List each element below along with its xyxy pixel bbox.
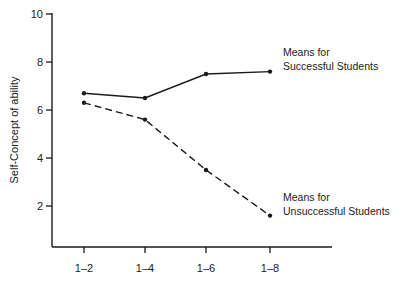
x-tick-label: 1–4 (136, 262, 154, 274)
series-annotation: Successful Students (283, 60, 378, 72)
y-tick-label: 6 (37, 104, 43, 116)
data-point (268, 213, 272, 217)
series-annotation: Means for (283, 46, 330, 58)
x-ticks: 1–21–41–61–8 (75, 247, 279, 274)
successful-line (84, 72, 270, 98)
series-annotation: Means for (283, 191, 330, 203)
y-tick-label: 10 (31, 8, 43, 20)
x-tick-label: 1–8 (261, 262, 279, 274)
y-tick-label: 8 (37, 56, 43, 68)
x-tick-label: 1–2 (75, 262, 93, 274)
x-tick-label: 1–6 (197, 262, 215, 274)
y-ticks: 246810 (31, 8, 52, 212)
y-axis-label: Self-Concept of ability (8, 76, 20, 183)
unsuccessful-line (84, 103, 270, 216)
series-group: Means forSuccessful StudentsMeans forUns… (82, 46, 390, 218)
data-point (204, 72, 208, 76)
series-annotation: Unsuccessful Students (283, 205, 390, 217)
y-tick-label: 4 (37, 152, 43, 164)
data-point (82, 91, 86, 95)
data-point (268, 69, 272, 73)
data-point (82, 101, 86, 105)
data-point (143, 96, 147, 100)
data-point (204, 168, 208, 172)
y-tick-label: 2 (37, 200, 43, 212)
line-chart: 246810 1–21–41–61–8 Self-Concept of abil… (0, 0, 407, 289)
data-point (143, 117, 147, 121)
